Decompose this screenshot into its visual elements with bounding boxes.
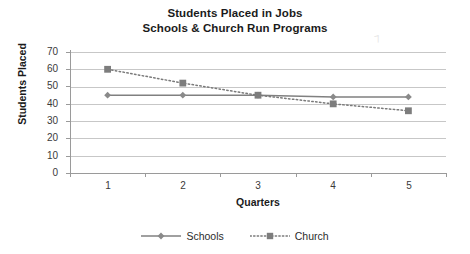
x-axis-title: Quarters [70, 196, 446, 208]
x-tick-mark [220, 173, 221, 177]
data-point-square[interactable] [330, 100, 337, 107]
data-point-square[interactable] [255, 92, 262, 99]
series-line [108, 69, 409, 110]
x-tick-label: 2 [168, 180, 198, 191]
x-tick-mark [145, 173, 146, 177]
x-tick-mark [296, 173, 297, 177]
scan-artifact: ⁊ [373, 28, 392, 45]
data-point-diamond[interactable] [104, 92, 111, 99]
x-tick-mark [371, 173, 372, 177]
y-tick-label: 40 [28, 99, 58, 109]
data-point-square[interactable] [405, 107, 412, 114]
legend-marker-square-icon [250, 231, 290, 241]
x-tick-label: 1 [93, 180, 123, 191]
chart-legend: Schools Church [0, 230, 470, 242]
x-tick-mark [446, 173, 447, 177]
legend-marker-diamond-icon [141, 231, 181, 241]
legend-item-church[interactable]: Church [250, 230, 329, 242]
data-point-diamond[interactable] [179, 92, 186, 99]
y-tick-label: 10 [28, 151, 58, 161]
x-tick-mark [70, 173, 71, 177]
data-point-diamond[interactable] [405, 94, 412, 101]
data-point-diamond[interactable] [330, 94, 337, 101]
y-tick-label: 70 [28, 47, 58, 57]
legend-item-schools[interactable]: Schools [141, 230, 223, 242]
data-point-square[interactable] [104, 66, 111, 73]
y-tick-label: 30 [28, 116, 58, 126]
legend-label-schools: Schools [186, 230, 223, 242]
x-axis-line [70, 173, 447, 174]
chart-container: Students Placed in Jobs Schools & Church… [0, 0, 470, 254]
data-point-square[interactable] [179, 80, 186, 87]
x-tick-label: 4 [318, 180, 348, 191]
y-tick-label: 20 [28, 133, 58, 143]
chart-title-line2: Schools & Church Run Programs [0, 21, 470, 36]
y-tick-label: 0 [28, 168, 58, 178]
series-plot [70, 52, 446, 173]
chart-title: Students Placed in Jobs Schools & Church… [0, 6, 470, 36]
chart-title-line1: Students Placed in Jobs [167, 7, 302, 19]
series-church [104, 66, 412, 114]
legend-label-church: Church [295, 230, 329, 242]
y-tick-label: 60 [28, 64, 58, 74]
y-axis-tick-labels: 70 60 50 40 30 20 10 0 [0, 0, 64, 254]
x-tick-label: 3 [243, 180, 273, 191]
y-tick-label: 50 [28, 81, 58, 91]
x-tick-label: 5 [394, 180, 424, 191]
